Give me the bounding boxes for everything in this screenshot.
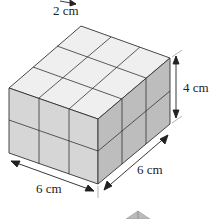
- height-label: 4 cm: [183, 80, 209, 95]
- side-depth-label: 6 cm: [137, 162, 163, 177]
- cube-edge-label: 2 cm: [53, 3, 79, 18]
- partial-cube-shape: [126, 211, 150, 219]
- front-width-label: 6 cm: [36, 181, 62, 196]
- cuboid-diagram: 2 cm 4 cm 6 cm 6 cm: [0, 0, 212, 219]
- height-dimension: [172, 50, 182, 123]
